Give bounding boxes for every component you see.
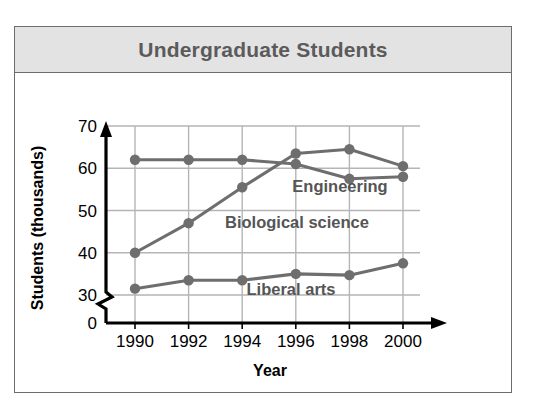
x-tick-label: 1992 bbox=[170, 332, 208, 351]
data-point-marker bbox=[130, 155, 140, 165]
x-axis-title: Year bbox=[253, 362, 287, 379]
data-point-marker bbox=[291, 269, 301, 279]
data-point-marker bbox=[183, 275, 193, 285]
x-tick-label: 1994 bbox=[223, 332, 261, 351]
data-point-marker bbox=[183, 155, 193, 165]
y-tick-label: 60 bbox=[78, 159, 97, 178]
y-axis-line bbox=[98, 133, 112, 323]
series-line bbox=[135, 149, 403, 253]
plot-area: 03040506070 199019921994199619982000 Stu… bbox=[15, 73, 511, 393]
data-point-marker bbox=[344, 144, 354, 154]
y-tick-label: 50 bbox=[78, 202, 97, 221]
x-axis-arrow-icon bbox=[431, 317, 447, 329]
y-tick-label: 40 bbox=[78, 244, 97, 263]
x-tick-label: 2000 bbox=[384, 332, 422, 351]
data-point-marker bbox=[237, 182, 247, 192]
y-axis-arrow-icon bbox=[100, 121, 112, 137]
data-point-marker bbox=[291, 148, 301, 158]
page-title: Undergraduate Students bbox=[138, 38, 387, 62]
data-point-marker bbox=[130, 283, 140, 293]
y-tick-label: 70 bbox=[78, 117, 97, 136]
data-point-marker bbox=[398, 161, 408, 171]
x-tick-labels: 199019921994199619982000 bbox=[116, 332, 422, 351]
y-tick-label: 30 bbox=[78, 286, 97, 305]
figure-frame: Undergraduate Students 03040506070 19901… bbox=[14, 26, 512, 393]
y-tick-labels: 03040506070 bbox=[78, 117, 97, 333]
x-tick-label: 1990 bbox=[116, 332, 154, 351]
data-point-marker bbox=[183, 218, 193, 228]
x-tick-label: 1996 bbox=[277, 332, 315, 351]
series-label-liberal-arts: Liberal arts bbox=[247, 280, 336, 298]
y-axis-title: Students (thousands) bbox=[29, 146, 46, 310]
x-tick-label: 1998 bbox=[330, 332, 368, 351]
y-tick-label: 0 bbox=[88, 314, 97, 333]
series-label-biological-science: Biological science bbox=[225, 213, 369, 231]
chart-title-bar: Undergraduate Students bbox=[15, 27, 511, 73]
data-point-marker bbox=[398, 172, 408, 182]
data-point-marker bbox=[344, 270, 354, 280]
data-point-marker bbox=[237, 155, 247, 165]
series-label-engineering: Engineering bbox=[292, 177, 387, 195]
data-point-marker bbox=[130, 248, 140, 258]
data-point-marker bbox=[398, 258, 408, 268]
data-point-marker bbox=[291, 159, 301, 169]
line-chart: 03040506070 199019921994199619982000 Stu… bbox=[15, 73, 513, 393]
